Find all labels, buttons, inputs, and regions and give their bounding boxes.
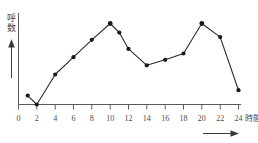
chart-container: 呼 数 0 2 4 6 8	[0, 0, 258, 143]
data-point	[90, 38, 94, 42]
y-axis-label-char-2: 数	[7, 22, 16, 33]
x-axis-label: 時間	[245, 114, 258, 123]
x-tick-label: 12	[125, 114, 133, 123]
data-point	[163, 58, 167, 62]
x-tick-label: 6	[72, 114, 76, 123]
x-axis-tick-labels: 0 2 4 6 8 10 12 14 16 18 20 22 24	[17, 114, 243, 123]
x-tick-label: 18	[180, 114, 188, 123]
data-point	[71, 55, 75, 59]
up-arrow-icon	[8, 39, 15, 78]
x-tick-label: 8	[90, 114, 94, 123]
data-point	[199, 21, 204, 26]
data-point	[35, 102, 39, 106]
x-tick-label: 10	[106, 114, 114, 123]
data-point	[117, 30, 121, 34]
x-axis-ticks	[19, 105, 239, 110]
data-point	[145, 63, 149, 67]
data-point	[53, 72, 57, 76]
data-point	[236, 88, 240, 92]
x-tick-label: 24	[235, 114, 243, 123]
data-point	[108, 21, 113, 26]
data-point	[181, 51, 185, 55]
series-line	[28, 24, 239, 105]
x-tick-label: 2	[35, 114, 39, 123]
x-tick-label: 0	[17, 114, 21, 123]
data-point	[126, 47, 130, 51]
line-chart: 呼 数 0 2 4 6 8	[0, 0, 258, 143]
series-markers	[26, 21, 241, 107]
right-arrow-icon	[203, 130, 239, 137]
y-axis-label-char-1: 呼	[7, 13, 16, 23]
x-tick-label: 20	[198, 114, 206, 123]
data-point	[218, 35, 222, 39]
x-tick-label: 16	[161, 114, 169, 123]
data-point	[26, 94, 30, 98]
x-tick-label: 14	[143, 114, 151, 123]
x-tick-label: 22	[216, 114, 224, 123]
x-tick-label: 4	[53, 114, 57, 123]
